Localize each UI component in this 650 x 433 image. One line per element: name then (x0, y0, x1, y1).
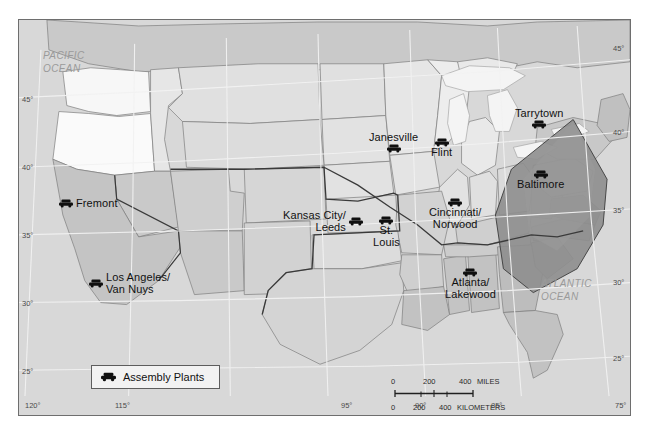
lat-label-left-35: 35° (22, 231, 33, 240)
plant-label: St. Louis (373, 225, 400, 248)
plant-marker-flint[interactable]: Flint (431, 138, 452, 159)
lon-label-75: 75° (615, 401, 626, 410)
ocean-label-atlantic: ATLANTIC OCEAN (541, 278, 592, 303)
lon-label-90: 90° (415, 401, 426, 410)
plant-label: Los Angeles/ Van Nuys (106, 272, 170, 295)
scale-ruler (394, 389, 476, 398)
plant-label: Janesville (369, 132, 418, 144)
region-arkansas (400, 255, 444, 293)
plant-marker-atlanta-lakewood[interactable]: Atlanta/ Lakewood (445, 268, 496, 300)
region-north-dakota (320, 64, 386, 120)
plant-label: Fremont (76, 198, 118, 210)
lon-label-115: 115° (115, 401, 130, 410)
map-frame: PACIFIC OCEAN ATLANTIC OCEAN Fremont (18, 19, 631, 416)
plant-marker-cincinnati-norwood[interactable]: Cincinnati/ Norwood (429, 198, 481, 230)
plant-label: Baltimore (517, 179, 564, 191)
plant-label: Tarrytown (515, 108, 564, 120)
plant-marker-fremont[interactable]: Fremont (59, 198, 118, 210)
car-icon (387, 144, 401, 153)
lat-label-right-30: 30° (613, 278, 624, 287)
region-wyoming (182, 119, 324, 169)
lon-label-85: 85° (491, 401, 502, 410)
scale-tick-label: 400 (439, 403, 452, 412)
lat-label-left-40: 40° (22, 163, 33, 172)
plant-marker-janesville[interactable]: Janesville (369, 132, 418, 153)
assembly-plants-map-figure: PACIFIC OCEAN ATLANTIC OCEAN Fremont (0, 0, 650, 433)
lat-label-right-35: 35° (613, 206, 624, 215)
legend[interactable]: Assembly Plants (91, 365, 220, 389)
lat-label-left-25: 25° (22, 367, 33, 376)
lat-label-right-45: 45° (613, 44, 624, 53)
car-icon (349, 217, 363, 226)
scale-tick-label: 400 (459, 377, 472, 386)
plant-label: Flint (431, 147, 452, 159)
plant-marker-los-angeles-van-nuys[interactable]: Los Angeles/ Van Nuys (89, 272, 170, 295)
lat-label-right-40: 40° (613, 128, 624, 137)
scale-tick-label: 0 (391, 403, 395, 412)
plant-label: Kansas City/ Leeds (283, 210, 346, 233)
ocean-label-pacific: PACIFIC OCEAN (43, 50, 85, 75)
lon-label-120: 120° (25, 401, 41, 410)
lat-label-left-30: 30° (22, 299, 33, 308)
plant-label: Atlanta/ Lakewood (445, 277, 496, 300)
scale-tick-label: 0 (391, 377, 395, 386)
scale-tick-label: 200 (423, 377, 436, 386)
plant-marker-baltimore[interactable]: Baltimore (517, 170, 564, 191)
plant-marker-kansas-city-leeds[interactable]: Kansas City/ Leeds (283, 210, 363, 233)
plant-marker-st-louis[interactable]: St. Louis (373, 216, 400, 248)
lon-label-95: 95° (341, 401, 352, 410)
car-icon (89, 279, 103, 288)
plant-marker-tarrytown[interactable]: Tarrytown (515, 108, 564, 129)
lat-label-right-25: 25° (613, 354, 624, 363)
car-icon (59, 199, 73, 208)
lat-label-left-45: 45° (22, 95, 33, 104)
scale-miles-row: 0 200 400 MILES (391, 377, 511, 386)
plant-label: Cincinnati/ Norwood (429, 207, 481, 230)
car-icon (101, 368, 116, 386)
scale-unit-miles: MILES (477, 377, 500, 386)
car-icon (532, 120, 546, 129)
region-montana (169, 64, 321, 124)
legend-label: Assembly Plants (123, 371, 204, 383)
